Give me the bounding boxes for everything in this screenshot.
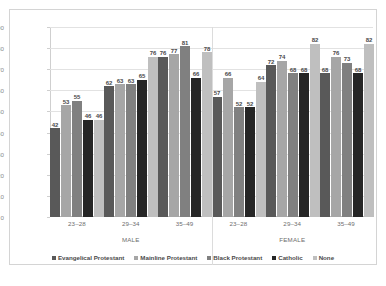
bar-value-label: 46 xyxy=(96,113,102,119)
legend-label: Mainline Protestant xyxy=(140,254,197,261)
bar[interactable]: 74 xyxy=(277,61,287,217)
bar[interactable]: 53 xyxy=(61,105,71,217)
bar[interactable]: 64 xyxy=(256,82,266,217)
bar-group: 6876736882 xyxy=(320,27,374,217)
bar-group: 7677816678 xyxy=(158,27,212,217)
y-axis-tick-label: 10 xyxy=(0,192,4,199)
bar-set: 6263636576 xyxy=(104,27,158,217)
bar-value-label: 64 xyxy=(258,75,264,81)
bar[interactable]: 62 xyxy=(104,86,114,217)
bar-slot: 57 xyxy=(212,27,222,217)
legend-label: Catholic xyxy=(278,254,302,261)
bar-value-label: 82 xyxy=(312,37,318,43)
bar[interactable]: 52 xyxy=(245,107,255,217)
bar-group: 5766525264 xyxy=(212,27,266,217)
bar-value-label: 52 xyxy=(247,101,253,107)
bar[interactable]: 82 xyxy=(364,44,374,217)
bar[interactable]: 76 xyxy=(148,57,158,217)
y-axis-tick-label: 20 xyxy=(0,171,4,178)
bar[interactable]: 66 xyxy=(223,78,233,217)
x-axis-category-label: 29–34 xyxy=(265,220,319,227)
bar-value-label: 63 xyxy=(128,78,134,84)
bar[interactable]: 76 xyxy=(158,57,168,217)
bar[interactable]: 46 xyxy=(94,120,104,217)
x-axis-sex-label: FEMALE xyxy=(212,236,374,243)
bar-slot: 66 xyxy=(223,27,233,217)
bar-value-label: 68 xyxy=(301,67,307,73)
bar[interactable]: 72 xyxy=(266,65,276,217)
legend-label: None xyxy=(319,254,334,261)
bar[interactable]: 76 xyxy=(331,57,341,217)
bar-slot: 52 xyxy=(234,27,244,217)
x-axis-category-labels: 23–2829–3435–4923–2829–3435–49 xyxy=(50,220,373,227)
bar-set: 4253554646 xyxy=(50,27,104,217)
bar[interactable]: 52 xyxy=(234,107,244,217)
legend-item[interactable]: None xyxy=(313,254,334,261)
bar-value-label: 68 xyxy=(355,67,361,73)
bar-value-label: 76 xyxy=(150,50,156,56)
bar-slot: 76 xyxy=(158,27,168,217)
x-axis-category-label: 23–28 xyxy=(50,220,104,227)
bar-slot: 65 xyxy=(137,27,147,217)
y-axis-tick-label: 70 xyxy=(0,66,4,73)
legend-item[interactable]: Evangelical Protestant xyxy=(52,254,124,261)
bar[interactable]: 46 xyxy=(83,120,93,217)
bar[interactable]: 78 xyxy=(202,52,212,217)
bar-set: 6876736882 xyxy=(320,27,374,217)
bar[interactable]: 42 xyxy=(50,128,60,217)
bar-slot: 53 xyxy=(61,27,71,217)
bar[interactable]: 73 xyxy=(342,63,352,217)
bar-slot: 42 xyxy=(50,27,60,217)
bar-slot: 73 xyxy=(342,27,352,217)
x-axis-sex-label: MALE xyxy=(50,236,212,243)
bar-value-label: 53 xyxy=(63,99,69,105)
bar-slot: 66 xyxy=(191,27,201,217)
bar[interactable]: 63 xyxy=(115,84,125,217)
legend-swatch-icon xyxy=(272,256,276,260)
legend-item[interactable]: Mainline Protestant xyxy=(134,254,197,261)
y-axis-tick-mark xyxy=(47,217,50,218)
bar[interactable]: 55 xyxy=(72,101,82,217)
legend-item[interactable]: Catholic xyxy=(272,254,302,261)
legend-item[interactable]: Black Protestant xyxy=(207,254,262,261)
bar[interactable]: 68 xyxy=(288,73,298,217)
bar[interactable]: 57 xyxy=(212,97,222,217)
bar-slot: 78 xyxy=(202,27,212,217)
chart-legend: Evangelical ProtestantMainline Protestan… xyxy=(9,254,377,261)
plot-area: 9080706050403020100 42535546466263636576… xyxy=(50,27,373,217)
bar-slot: 64 xyxy=(256,27,266,217)
y-axis-tick-label: 50 xyxy=(0,108,4,115)
bar[interactable]: 82 xyxy=(310,44,320,217)
bar-slot: 62 xyxy=(104,27,114,217)
bar-value-label: 63 xyxy=(117,78,123,84)
bar-value-label: 82 xyxy=(366,37,372,43)
bar-slot: 46 xyxy=(94,27,104,217)
bar[interactable]: 68 xyxy=(299,73,309,217)
bar[interactable]: 65 xyxy=(137,80,147,217)
bar-slot: 63 xyxy=(126,27,136,217)
legend-swatch-icon xyxy=(313,256,317,260)
chart-container: 9080706050403020100 42535546466263636576… xyxy=(0,0,386,286)
bar[interactable]: 81 xyxy=(180,46,190,217)
bar[interactable]: 63 xyxy=(126,84,136,217)
y-axis-tick-label: 0 xyxy=(0,214,4,221)
y-axis-tick-label: 30 xyxy=(0,150,4,157)
bar-set: 7677816678 xyxy=(158,27,212,217)
bar-slot: 68 xyxy=(288,27,298,217)
bar-slot: 77 xyxy=(169,27,179,217)
bar[interactable]: 68 xyxy=(353,73,363,217)
bar-value-label: 76 xyxy=(160,50,166,56)
bar-group: 6263636576 xyxy=(104,27,158,217)
bar-slot: 68 xyxy=(320,27,330,217)
bar-slot: 68 xyxy=(299,27,309,217)
bar[interactable]: 77 xyxy=(169,54,179,217)
legend-swatch-icon xyxy=(207,256,211,260)
bar-slot: 82 xyxy=(364,27,374,217)
bar[interactable]: 68 xyxy=(320,73,330,217)
bar-slot: 81 xyxy=(180,27,190,217)
bar[interactable]: 66 xyxy=(191,78,201,217)
chart-frame: 9080706050403020100 42535546466263636576… xyxy=(9,9,377,265)
bar-value-label: 76 xyxy=(333,50,339,56)
bar-set: 7274686882 xyxy=(266,27,320,217)
legend-label: Black Protestant xyxy=(213,254,262,261)
